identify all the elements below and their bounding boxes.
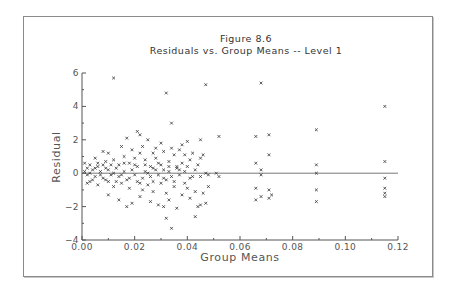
data-point — [254, 187, 257, 190]
data-point — [315, 200, 318, 203]
data-point — [131, 148, 134, 151]
data-point — [191, 152, 194, 155]
x-tick-label: 0.02 — [124, 242, 146, 252]
data-point — [152, 180, 155, 183]
data-point — [162, 177, 165, 180]
data-point — [123, 162, 126, 165]
chart-title: Figure 8.6 — [220, 33, 272, 44]
data-point — [99, 173, 102, 176]
data-point — [125, 137, 128, 140]
data-point — [149, 175, 152, 178]
data-point — [146, 138, 149, 141]
data-point — [207, 185, 210, 188]
data-point — [86, 173, 89, 176]
data-point — [194, 215, 197, 218]
data-point — [128, 177, 131, 180]
data-point — [170, 147, 173, 150]
data-point — [170, 122, 173, 125]
data-point — [144, 170, 147, 173]
data-point — [96, 183, 99, 186]
data-point — [120, 145, 123, 148]
data-point — [254, 135, 257, 138]
data-point — [152, 190, 155, 193]
data-point — [120, 173, 123, 176]
data-point — [170, 175, 173, 178]
data-point — [175, 167, 178, 170]
data-point — [162, 168, 165, 171]
data-point — [96, 165, 99, 168]
y-tick-label: −2 — [65, 202, 79, 212]
data-point — [218, 175, 221, 178]
data-point — [191, 175, 194, 178]
data-point — [168, 199, 171, 202]
data-point — [120, 182, 123, 185]
data-point — [115, 180, 118, 183]
data-point — [117, 175, 120, 178]
data-point — [189, 197, 192, 200]
data-point — [94, 157, 97, 160]
data-point — [178, 168, 181, 171]
data-point — [170, 227, 173, 230]
data-point — [383, 177, 386, 180]
scatter-chart: Figure 8.6 Residuals vs. Group Means -- … — [0, 0, 452, 291]
data-point — [168, 165, 171, 168]
y-tick-label: 2 — [73, 135, 79, 145]
data-point — [157, 162, 160, 165]
data-point — [91, 168, 94, 171]
x-tick-label: 0.04 — [177, 242, 199, 252]
data-point — [144, 158, 147, 161]
data-point — [99, 170, 102, 173]
axes: 0.000.020.040.060.080.100.12−4−20246 — [65, 68, 409, 252]
data-point — [199, 157, 202, 160]
data-point — [136, 130, 139, 133]
data-point — [194, 168, 197, 171]
data-point — [181, 143, 184, 146]
data-point — [86, 182, 89, 185]
data-point — [110, 163, 113, 166]
data-point — [254, 199, 257, 202]
data-point — [260, 195, 263, 198]
y-tick-label: −4 — [65, 235, 79, 245]
data-point — [112, 77, 115, 80]
data-point — [154, 157, 157, 160]
data-point — [139, 133, 142, 136]
data-point — [152, 167, 155, 170]
data-point — [160, 163, 163, 166]
data-point — [173, 180, 176, 183]
data-point — [186, 187, 189, 190]
data-point — [202, 192, 205, 195]
data-point — [173, 153, 176, 156]
data-point — [268, 189, 271, 192]
data-point — [199, 138, 202, 141]
data-point — [165, 192, 168, 195]
y-tick-label: 0 — [73, 168, 79, 178]
data-point — [173, 185, 176, 188]
data-point — [218, 135, 221, 138]
data-point — [181, 162, 184, 165]
data-point — [104, 167, 107, 170]
data-point — [268, 133, 271, 136]
x-tick-label: 0.12 — [387, 242, 409, 252]
data-point — [196, 205, 199, 208]
data-point — [165, 217, 168, 220]
data-point — [149, 200, 152, 203]
data-point — [128, 187, 131, 190]
data-point — [131, 202, 134, 205]
data-point — [115, 167, 118, 170]
data-point — [149, 165, 152, 168]
data-point — [131, 168, 134, 171]
data-point — [162, 150, 165, 153]
x-tick-label: 0.10 — [335, 242, 357, 252]
data-point — [315, 163, 318, 166]
data-point — [107, 168, 110, 171]
data-point — [207, 173, 210, 176]
data-points — [83, 77, 386, 230]
data-point — [383, 105, 386, 108]
data-point — [139, 195, 142, 198]
data-point — [141, 177, 144, 180]
y-tick-label: 6 — [73, 68, 79, 78]
data-point — [157, 204, 160, 207]
data-point — [160, 142, 163, 145]
data-point — [86, 167, 89, 170]
data-point — [141, 145, 144, 148]
